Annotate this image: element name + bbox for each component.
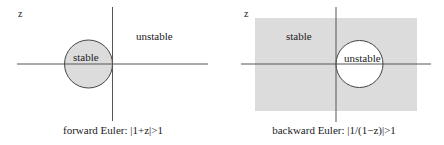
stable-region-label: stable xyxy=(73,51,99,63)
euler-stability-figure: z stable unstable forward Euler: |1+z|>1… xyxy=(0,0,444,145)
plane-label-z: z xyxy=(244,8,249,19)
caption: forward Euler: |1+z|>1 xyxy=(63,124,163,136)
plane-label-z: z xyxy=(18,8,23,19)
unstable-region-label: unstable xyxy=(344,52,381,64)
unstable-region-label: unstable xyxy=(136,30,173,42)
caption: backward Euler: |1/(1−z)|>1 xyxy=(272,124,396,137)
forward-euler-panel: z stable unstable forward Euler: |1+z|>1 xyxy=(17,7,208,136)
stable-region-label: stable xyxy=(286,30,312,42)
backward-euler-panel: z stable unstable backward Euler: |1/(1−… xyxy=(241,7,431,137)
